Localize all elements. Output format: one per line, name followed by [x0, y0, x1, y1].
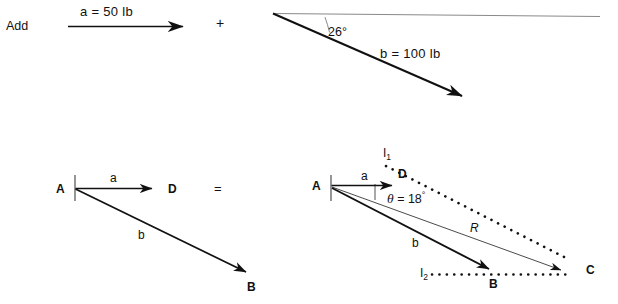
figure-canvas: Add a = 50 lb + 26° b = 100 lb A a D b B… [0, 0, 618, 304]
left-point-A-label: A [56, 183, 65, 195]
construction-line-l1-label: I1 [383, 147, 391, 162]
operator-equals: = [214, 182, 222, 195]
right-vector-b-label: b [412, 237, 419, 249]
top-vector-b-label: b = 100 lb [380, 47, 440, 60]
theta-value: 18 [408, 192, 422, 206]
theta-equals: = [397, 192, 404, 206]
right-point-C-label: C [586, 264, 595, 276]
angle-26-label: 26° [328, 26, 347, 39]
left-vector-a-label: a [110, 172, 117, 184]
left-vector-b-arrow [76, 189, 247, 272]
left-point-D-label: D [168, 183, 177, 195]
right-point-D-label: D [398, 168, 407, 180]
l1-subscript: 1 [386, 152, 391, 162]
l2-subscript: 2 [423, 272, 428, 282]
theta-symbol: θ [387, 191, 394, 206]
vector-diagram-svg [0, 0, 618, 304]
left-vector-b-label: b [138, 229, 145, 241]
instruction-label: Add [6, 20, 28, 33]
top-horizontal-reference-line [273, 14, 600, 17]
top-vector-a-label: a = 50 lb [80, 5, 133, 18]
angle-theta-label: θ = 18° [387, 191, 425, 206]
left-point-B-label: B [247, 281, 256, 293]
construction-line-l2-label: I2 [420, 267, 428, 282]
right-vector-R-label: R [470, 222, 479, 234]
right-point-A-label: A [312, 180, 321, 192]
theta-degree-sign: ° [422, 190, 426, 200]
operator-plus: + [216, 16, 224, 30]
right-vector-R-arrow [332, 187, 561, 270]
right-point-B-label: B [489, 278, 498, 290]
right-vector-a-label: a [361, 170, 368, 182]
